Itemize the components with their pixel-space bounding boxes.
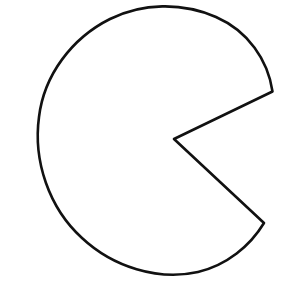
pac-man-shape-svg: Circle with removed sector (Pac-Man shap… <box>0 0 281 288</box>
pac-man-outline-path <box>38 6 273 274</box>
figure-canvas: Circle with removed sector (Pac-Man shap… <box>0 0 281 288</box>
